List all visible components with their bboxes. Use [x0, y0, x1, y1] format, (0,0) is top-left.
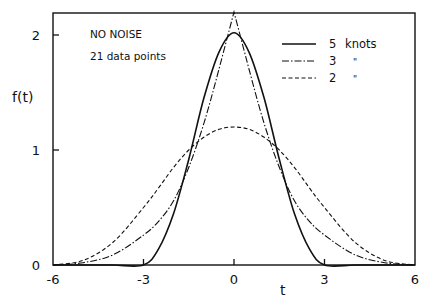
legend-number-2: 2 — [329, 71, 336, 85]
legend-number-5: 5 — [329, 37, 336, 51]
curve-2-knots — [53, 127, 415, 265]
y-tick-label: 0 — [32, 258, 40, 273]
annotation-noise: NO NOISE — [90, 28, 142, 40]
legend: 5 knots 3 " 2 " — [282, 37, 377, 85]
annotation-points: 21 data points — [90, 50, 166, 62]
x-tick-label: 0 — [230, 272, 238, 287]
chart: -6-3036012 NO NOISE 21 data points f(t) … — [0, 0, 430, 305]
x-axis-label: t — [280, 282, 286, 298]
y-tick-label: 1 — [32, 143, 40, 158]
legend-number-3: 3 — [329, 54, 336, 68]
legend-ditto-2: " — [353, 74, 357, 84]
axis-ticks: -6-3036012 — [32, 28, 419, 287]
x-tick-label: -6 — [47, 272, 60, 287]
y-tick-label: 2 — [32, 28, 40, 43]
y-axis-label: f(t) — [12, 89, 33, 105]
x-tick-label: 6 — [411, 272, 419, 287]
legend-text-knots: knots — [345, 37, 377, 51]
legend-ditto-3: " — [353, 57, 357, 67]
x-tick-label: 3 — [320, 272, 328, 287]
x-tick-label: -3 — [137, 272, 150, 287]
curve-5-knots — [53, 33, 415, 267]
